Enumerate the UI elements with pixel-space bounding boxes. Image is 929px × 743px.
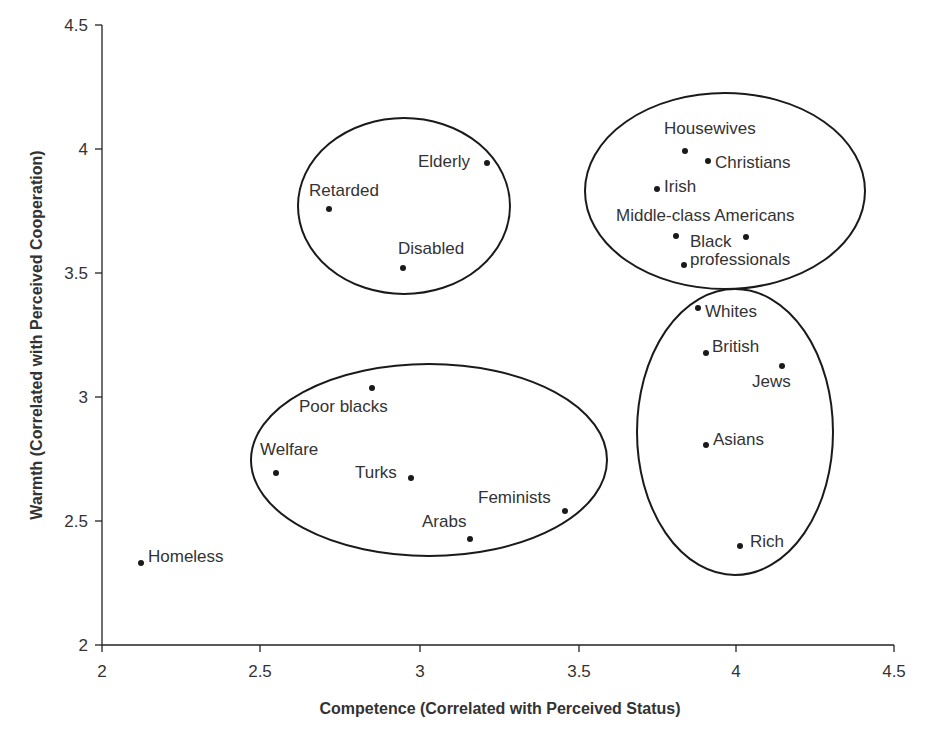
x-tick-label: 3 xyxy=(415,662,424,681)
y-tick-label: 2.5 xyxy=(64,512,88,531)
label-poor-blacks: Poor blacks xyxy=(299,397,388,416)
label-arabs: Arabs xyxy=(422,512,466,531)
y-tick-label: 4.5 xyxy=(64,16,88,35)
x-tick-label: 4.5 xyxy=(882,662,906,681)
label-elderly: Elderly xyxy=(418,152,470,171)
point-welfare xyxy=(273,470,279,476)
x-tick-label: 3.5 xyxy=(567,662,591,681)
label-homeless: Homeless xyxy=(148,547,224,566)
label-rich: Rich xyxy=(750,532,784,551)
label-housewives: Housewives xyxy=(664,119,756,138)
point-rich xyxy=(737,543,743,549)
label-turks: Turks xyxy=(355,463,397,482)
label-retarded: Retarded xyxy=(309,181,379,200)
point-unlabeled xyxy=(743,234,749,240)
y-tick-label: 2 xyxy=(79,636,88,655)
y-tick-label: 4 xyxy=(79,140,88,159)
point-british xyxy=(703,350,709,356)
point-arabs xyxy=(467,536,473,542)
y-axis: 4.5 4 3.5 3 2.5 2 Warmth (Correlated wit… xyxy=(28,16,102,655)
point-retarded xyxy=(326,206,332,212)
x-tick-label: 2.5 xyxy=(248,662,272,681)
point-christians xyxy=(705,158,711,164)
point-disabled xyxy=(400,265,406,271)
point-poor-blacks xyxy=(369,385,375,391)
point-labels: Homeless Retarded Elderly Disabled House… xyxy=(148,119,795,566)
y-axis-title: Warmth (Correlated with Perceived Cooper… xyxy=(28,150,45,519)
label-professionals: professionals xyxy=(690,250,790,269)
point-whites xyxy=(695,305,701,311)
label-christians: Christians xyxy=(715,153,791,172)
scatter-chart: 4.5 4 3.5 3 2.5 2 Warmth (Correlated wit… xyxy=(0,0,929,743)
label-whites: Whites xyxy=(705,302,757,321)
label-middle-class-americans: Middle-class Americans xyxy=(616,206,795,225)
point-housewives xyxy=(682,148,688,154)
y-tick-label: 3 xyxy=(79,388,88,407)
x-tick-label: 4 xyxy=(731,662,740,681)
point-middle-class-americans xyxy=(673,233,679,239)
x-tick-label: 2 xyxy=(97,662,106,681)
point-jews xyxy=(779,363,785,369)
y-tick-label: 3.5 xyxy=(64,264,88,283)
x-axis: 2 2.5 3 3.5 4 4.5 Competence (Correlated… xyxy=(97,645,906,717)
label-disabled: Disabled xyxy=(398,239,464,258)
point-turks xyxy=(408,475,414,481)
label-asians: Asians xyxy=(713,430,764,449)
point-asians xyxy=(703,442,709,448)
label-black: Black xyxy=(690,232,732,251)
point-elderly xyxy=(484,160,490,166)
x-axis-title: Competence (Correlated with Perceived St… xyxy=(320,700,681,717)
point-feminists xyxy=(562,508,568,514)
point-irish xyxy=(654,186,660,192)
point-homeless xyxy=(138,560,144,566)
label-feminists: Feminists xyxy=(478,488,551,507)
label-british: British xyxy=(712,337,759,356)
label-irish: Irish xyxy=(664,177,696,196)
point-black-professionals xyxy=(681,262,687,268)
label-jews: Jews xyxy=(752,372,791,391)
label-welfare: Welfare xyxy=(260,440,318,459)
